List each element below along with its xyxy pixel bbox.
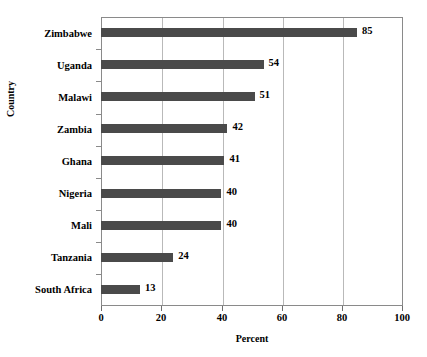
x-label-40: 40: [217, 312, 228, 323]
y-label-mali: Mali: [0, 210, 96, 242]
x-tick: [222, 306, 223, 311]
x-label-100: 100: [394, 312, 410, 323]
bar-value-south-africa: 13: [145, 281, 156, 294]
bar-row: 40: [101, 210, 403, 242]
bar-mali: [101, 221, 221, 230]
x-axis-labels: 0 20 40 60 80 100: [101, 312, 403, 328]
bar-row: 51: [101, 81, 403, 113]
bar-south-africa: [101, 285, 140, 294]
bar-nigeria: [101, 189, 221, 198]
y-label-ghana: Ghana: [0, 145, 96, 177]
x-tick: [282, 306, 283, 311]
bar-ghana: [101, 156, 224, 165]
bar-row: 42: [101, 113, 403, 145]
y-label-malawi: Malawi: [0, 81, 96, 113]
y-label-tanzania: Tanzania: [0, 242, 96, 274]
x-tick: [402, 306, 403, 311]
bar-value-tanzania: 24: [178, 249, 189, 262]
bar-row: 54: [101, 49, 403, 81]
bar-row: 24: [101, 242, 403, 274]
x-label-80: 80: [337, 312, 348, 323]
bar-value-mali: 40: [226, 217, 237, 230]
y-label-zambia: Zambia: [0, 113, 96, 145]
x-label-20: 20: [156, 312, 167, 323]
y-label-zimbabwe: Zimbabwe: [0, 17, 96, 49]
bar-uganda: [101, 60, 264, 69]
bar-malawi: [101, 92, 255, 101]
bar-value-zambia: 42: [232, 120, 243, 133]
x-tick: [342, 306, 343, 311]
bar-row: 41: [101, 145, 403, 177]
x-axis-title: Percent: [101, 333, 403, 344]
y-label-south-africa: South Africa: [0, 274, 96, 306]
bar-chart: Country Zimbabwe Uganda Malawi Zambia Gh…: [0, 0, 427, 357]
bar-value-malawi: 51: [260, 88, 271, 101]
bar-zambia: [101, 124, 227, 133]
x-tick: [161, 306, 162, 311]
bar-tanzania: [101, 253, 173, 262]
bar-value-zimbabwe: 85: [362, 24, 373, 37]
bar-zimbabwe: [101, 28, 357, 37]
y-axis-labels: Zimbabwe Uganda Malawi Zambia Ghana Nige…: [0, 17, 96, 306]
y-label-nigeria: Nigeria: [0, 178, 96, 210]
x-label-0: 0: [98, 312, 103, 323]
bar-value-nigeria: 40: [226, 185, 237, 198]
bar-row: 85: [101, 17, 403, 49]
bar-row: 13: [101, 274, 403, 306]
bar-series: 85 54 51 42 41 40 40 24: [101, 17, 403, 306]
bar-value-ghana: 41: [229, 152, 240, 165]
x-tick: [101, 306, 102, 311]
x-label-60: 60: [277, 312, 288, 323]
bar-row: 40: [101, 178, 403, 210]
bar-value-uganda: 54: [269, 56, 280, 69]
y-label-uganda: Uganda: [0, 49, 96, 81]
